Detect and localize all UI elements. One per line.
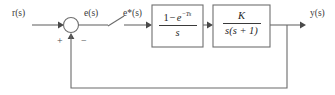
plant-numerator: K	[213, 10, 270, 22]
zoh-numerator-operator: −	[169, 12, 177, 23]
block-diagram: r(s) e(s) e*(s) y(s) + − 1−e−Ts s K s(s …	[0, 0, 335, 95]
zoh-numerator: 1−e−Ts	[152, 10, 203, 24]
label-sampled-error-signal: e*(s)	[123, 9, 142, 19]
zoh-fraction-bar	[159, 25, 197, 26]
label-error-signal: e(s)	[84, 9, 98, 19]
sampler-switch-blade[interactable]	[108, 16, 124, 26]
zoh-numerator-exponent: −Ts	[181, 10, 191, 17]
zoh-denominator: s	[152, 27, 203, 39]
label-output-signal: y(s)	[310, 9, 325, 19]
zero-order-hold-expression: 1−e−Ts s	[152, 10, 203, 39]
sum-minus-sign: −	[81, 36, 87, 46]
sum-plus-sign: +	[57, 36, 63, 46]
label-input-signal: r(s)	[12, 9, 25, 19]
arrow-output-icon	[300, 22, 306, 29]
plant-denominator: s(s + 1)	[213, 25, 270, 37]
plant-fraction-bar	[223, 23, 261, 24]
plant-expression: K s(s + 1)	[213, 10, 270, 37]
summing-junction-circle	[64, 18, 79, 33]
